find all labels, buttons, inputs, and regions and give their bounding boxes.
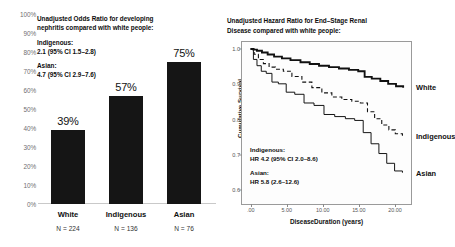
survival-curve-indigenous	[251, 49, 403, 136]
survival-y-tick-mark	[239, 84, 242, 85]
survival-y-tick-mark	[239, 154, 242, 155]
survival-x-tick: 20.00	[388, 207, 402, 213]
survival-x-tick-mark	[395, 204, 396, 207]
bar-value-label: 57%	[97, 81, 155, 93]
bar-chart-y-tick: 90%	[24, 30, 37, 37]
odds-ratio-asian-value: 4.7 (95% CI 2.9–7.6)	[37, 70, 169, 79]
survival-series-label-asian: Asian	[416, 169, 436, 178]
hr-asian-label: Asian:	[250, 169, 370, 178]
bar-value-label: 39%	[39, 115, 97, 127]
survival-y-tick-mark	[239, 190, 242, 191]
bar-chart-y-tick: 70%	[24, 68, 37, 75]
hazard-ratio-title: Unadjusted Hazard Ratio for End–Stage Re…	[227, 16, 395, 35]
hazard-ratio-title-line1: Unadjusted Hazard Ratio for End–Stage Re…	[227, 16, 395, 26]
hr-indigenous-label: Indigenous:	[250, 146, 370, 155]
odds-ratio-heading-line2: nephritis compared with white people:	[37, 23, 169, 32]
bar-category-label: Asian	[145, 210, 223, 219]
bar-chart-y-tick: 80%	[24, 49, 37, 56]
survival-y-tick-mark	[239, 49, 242, 50]
bar-group-asian: 75%AsianN = 76	[167, 14, 201, 204]
odds-ratio-asian-label: Asian:	[37, 61, 169, 70]
survival-chart-panel: Unadjusted Hazard Ratio for End–Stage Re…	[224, 0, 448, 247]
survival-x-tick-mark	[251, 204, 252, 207]
survival-series-label-white: White	[416, 83, 436, 92]
bar-sample-size: N = 76	[145, 225, 223, 232]
bar-chart-y-tick: 0%	[27, 201, 36, 208]
hazard-ratio-annotation: Indigenous: HR 4.2 (95% CI 2.0–8.6) Asia…	[250, 146, 370, 187]
hr-asian-value: HR 5.8 (2.6–12.6)	[250, 178, 370, 187]
survival-x-tick: .00	[247, 207, 255, 213]
odds-ratio-annotation: Unadjusted Odds Ratio for developing nep…	[37, 14, 169, 80]
hazard-ratio-title-line2: Disease compared with white people:	[227, 26, 395, 36]
bar-chart-y-tick: 10%	[24, 182, 37, 189]
bar-chart-y-tick: 30%	[24, 144, 37, 151]
survival-x-tick-mark	[287, 204, 288, 207]
odds-ratio-indigenous-value: 2.1 (95% CI 1.5–2.8)	[37, 47, 169, 56]
survival-series-label-indigenous: Indigenous	[416, 132, 455, 141]
bar-chart-y-tick: 60%	[24, 87, 37, 94]
survival-y-tick-mark	[239, 119, 242, 120]
bar-chart-panel: 0%10%20%30%40%50%60%70%80%90%100% 39%Whi…	[0, 0, 224, 247]
odds-ratio-heading-line1: Unadjusted Odds Ratio for developing	[37, 14, 169, 23]
survival-x-tick: 5.00	[281, 207, 292, 213]
survival-x-axis-label: DiseaseDuration (years)	[241, 218, 412, 225]
odds-ratio-indigenous-label: Indigenous:	[37, 38, 169, 47]
bar-rect	[167, 62, 201, 205]
bar-chart-y-tick: 20%	[24, 163, 37, 170]
bar-chart-y-tick: 100%	[20, 11, 36, 18]
survival-x-tick-mark	[359, 204, 360, 207]
bar-rect	[51, 130, 85, 204]
bar-rect	[109, 96, 143, 204]
bar-chart-y-axis: 0%10%20%30%40%50%60%70%80%90%100%	[6, 14, 36, 204]
survival-x-tick: 10.00	[316, 207, 330, 213]
bar-chart-y-tick: 40%	[24, 125, 37, 132]
survival-x-tick: 15.00	[352, 207, 366, 213]
survival-x-tick-mark	[323, 204, 324, 207]
bar-chart-y-tick: 50%	[24, 106, 37, 113]
hr-indigenous-value: HR 4.2 (95% CI 2.0–8.6)	[250, 155, 370, 164]
